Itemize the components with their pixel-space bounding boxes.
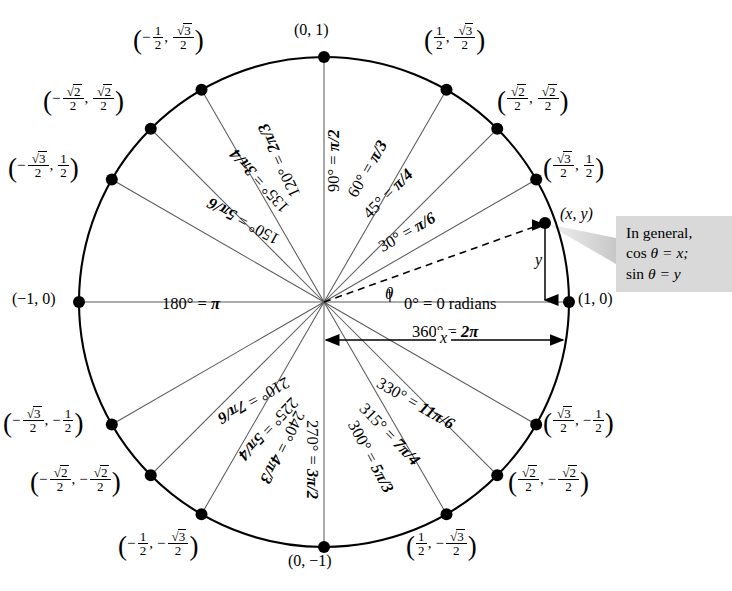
point-225deg [145,469,157,481]
coord-label-45deg: (√22, √22) [497,85,569,115]
point-210deg [106,419,118,431]
coord-label-240deg: (−12, −√32) [118,530,198,560]
angle-label-90: 90° = π/2 [324,129,344,192]
point-120deg [196,84,208,96]
point-315deg [491,469,503,481]
point-60deg [441,84,453,96]
point-30deg [530,174,542,186]
y-arrow-label: y [534,250,543,271]
point-135deg [145,123,157,135]
point-150deg [106,174,118,186]
coord-label-180deg: (−1, 0) [12,291,56,308]
coord-label-225deg: (−√22, −√22) [30,466,121,496]
angle-label-180: 180° = π [162,294,220,314]
point-180deg [73,296,85,308]
point-240deg [196,508,208,520]
coord-label-0deg: (1, 0) [578,291,613,308]
x-arrow-label: x [436,330,451,347]
point-330deg [530,419,542,431]
coord-label-30deg: (√32, 12) [543,152,604,182]
callout-line-2: cos θ = x; [626,243,723,263]
point-45deg [491,123,503,135]
coord-label-150deg: (−√32, 12) [8,152,79,182]
coord-label-120deg: (−12, √32) [133,24,204,54]
angle-label-270: 270° = 3π/2 [302,420,322,499]
point-300deg [441,508,453,520]
point-90deg [318,51,330,63]
theta-label: θ [385,285,393,303]
coord-label-60deg: (12, √32) [424,24,485,54]
coord-label-90deg: (0, 1) [294,22,329,39]
point-0deg [563,296,575,308]
callout-line-3: sin θ = y [626,264,723,284]
callout-box: In general, cos θ = x; sin θ = y [616,216,732,292]
coord-label-315deg: (√22, −√22) [508,466,589,496]
coord-label-330deg: (√32, −12) [543,407,614,437]
terminal-ray-dashed [324,223,545,302]
coord-label-270deg: (0, −1) [288,553,332,570]
coord-label-210deg: (−√32, −12) [3,407,83,437]
point-xy [539,217,551,229]
coord-label-135deg: (−√22, √22) [43,85,124,115]
angle-label-0: 0° = 0 radians [404,294,496,314]
coord-label-300deg: (12, −√32) [406,530,477,560]
xy-point-label: (x, y) [560,206,593,223]
callout-line-1: In general, [626,223,723,243]
